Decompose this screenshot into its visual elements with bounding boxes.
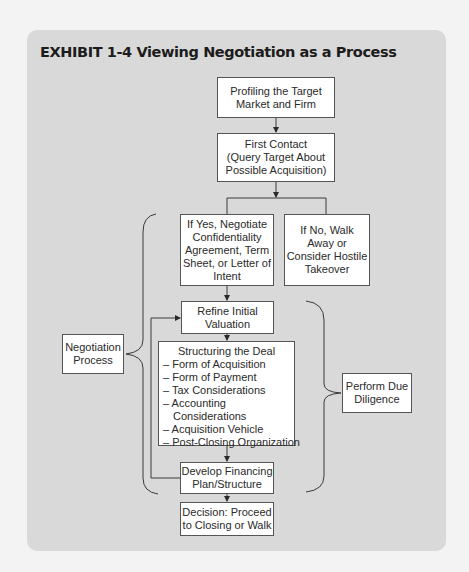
decision-box: Decision: Proceed to Closing or Walk	[180, 502, 274, 536]
due-diligence-brace	[306, 301, 341, 492]
refine-valuation-label: Refine Initial Valuation	[197, 305, 258, 331]
due-diligence-box: Perform Due Diligence	[342, 373, 412, 413]
negotiation-brace	[126, 214, 158, 494]
if-no-box: If No, Walk Away or Consider Hostile Tak…	[284, 214, 370, 286]
structuring-item: – Form of Payment	[163, 371, 290, 384]
structuring-item: – Post-Closing Organization	[163, 436, 290, 449]
profiling-box: Profiling the Target Market and Firm	[217, 77, 335, 118]
structuring-item: – Tax Considerations	[163, 384, 290, 397]
decision-label: Decision: Proceed to Closing or Walk	[182, 506, 271, 532]
structuring-deal-box: Structuring the Deal – Form of Acquisiti…	[158, 341, 295, 446]
structuring-item: Considerations	[163, 410, 290, 423]
negotiation-process-box: Negotiation Process	[62, 334, 124, 374]
financing-plan-box: Develop Financing Plan/Structure	[180, 462, 274, 494]
structuring-heading: Structuring the Deal	[163, 345, 290, 358]
structuring-item: – Accounting	[163, 397, 290, 410]
branch-connector	[227, 198, 326, 214]
if-yes-box: If Yes, Negotiate Confidentiality Agreem…	[180, 214, 274, 286]
structuring-item: – Acquisition Vehicle	[163, 423, 290, 436]
first-contact-box: First Contact (Query Target About Possib…	[217, 133, 335, 182]
if-yes-label: If Yes, Negotiate Confidentiality Agreem…	[183, 218, 271, 283]
due-diligence-label: Perform Due Diligence	[346, 380, 408, 406]
financing-plan-label: Develop Financing Plan/Structure	[181, 465, 272, 491]
structuring-item: – Form of Acquisition	[163, 358, 290, 371]
negotiation-process-label: Negotiation Process	[65, 341, 121, 367]
refine-valuation-box: Refine Initial Valuation	[181, 301, 274, 334]
profiling-label: Profiling the Target Market and Firm	[230, 85, 322, 111]
first-contact-label: First Contact (Query Target About Possib…	[226, 138, 327, 177]
if-no-label: If No, Walk Away or Consider Hostile Tak…	[287, 224, 368, 276]
